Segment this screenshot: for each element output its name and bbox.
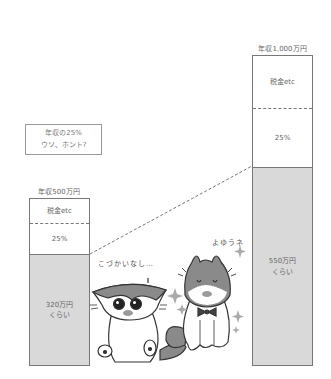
illustration-layer	[0, 0, 331, 379]
sad-cat-icon	[90, 278, 186, 362]
happy-cat-speech: よゆうネ	[212, 237, 244, 247]
happy-cat-icon	[166, 256, 236, 350]
sad-cat-speech: こづかいなし…	[98, 258, 154, 268]
